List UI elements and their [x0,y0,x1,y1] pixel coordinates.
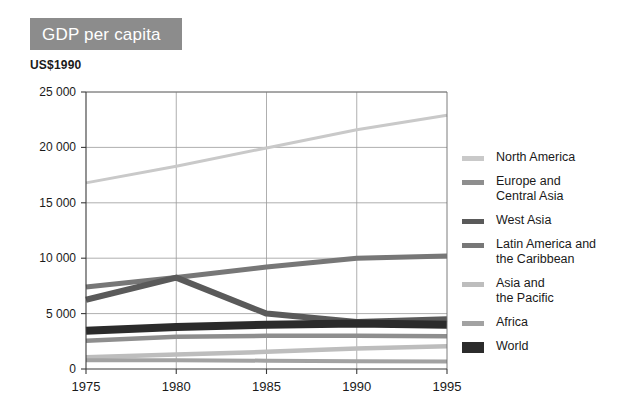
legend-item[interactable]: West Asia [462,213,620,228]
legend-label: Europe and Central Asia [496,174,563,204]
y-axis-tick-label: 10 000 [39,251,76,265]
legend-item[interactable]: Latin America and the Caribbean [462,237,620,267]
y-axis-tick-label: 20 000 [39,140,76,154]
x-axis-tick-label: 1985 [252,379,281,394]
legend-label: World [496,339,528,354]
legend-item[interactable]: Asia and the Pacific [462,276,620,306]
y-axis-tick-label: 0 [69,362,76,376]
legend-swatch-icon [462,219,484,224]
x-axis-tick-label: 1995 [433,379,462,394]
x-axis-tick-label: 1990 [342,379,371,394]
legend-swatch-icon [462,180,484,185]
x-axis-tick-label: 1980 [162,379,191,394]
legend-label: Latin America and the Caribbean [496,237,596,267]
legend-swatch-icon [462,342,484,353]
x-axis-tick-labels: 19751980198519901995 [72,379,462,394]
chart-legend: North AmericaEurope and Central AsiaWest… [462,150,620,363]
chart-figure: GDP per capita US$1990 05 00010 00015 00… [0,0,622,403]
legend-swatch-icon [462,321,484,326]
x-axis-tick-label: 1975 [72,379,101,394]
legend-label: Africa [496,315,528,330]
legend-label: Asia and the Pacific [496,276,554,306]
legend-item[interactable]: Africa [462,315,620,330]
legend-label: West Asia [496,213,551,228]
legend-label: North America [496,150,575,165]
legend-item[interactable]: World [462,339,620,354]
legend-swatch-icon [462,243,484,248]
legend-item[interactable]: North America [462,150,620,165]
series-line-africa [86,360,447,361]
y-axis-tick-label: 15 000 [39,196,76,210]
legend-swatch-icon [462,282,484,287]
y-axis-tick-label: 25 000 [39,85,76,99]
legend-swatch-icon [462,156,484,161]
y-axis-tick-label: 5 000 [46,307,76,321]
legend-item[interactable]: Europe and Central Asia [462,174,620,204]
y-axis-tick-labels: 05 00010 00015 00020 00025 000 [39,85,76,376]
